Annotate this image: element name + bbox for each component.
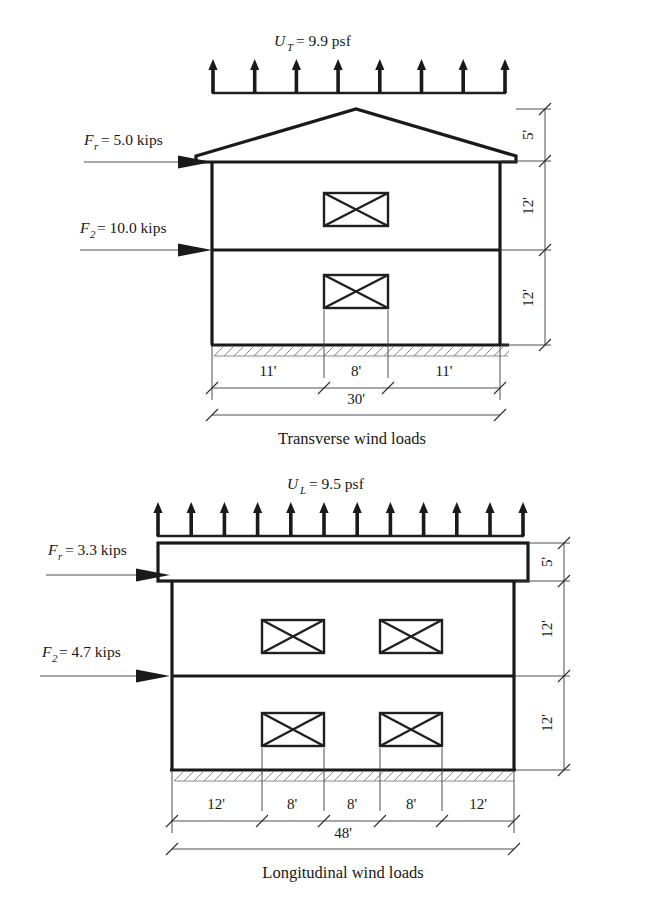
figure-caption-longitudinal: Longitudinal wind loads [262, 863, 423, 882]
braced-panel [380, 713, 442, 746]
vertical-dimension-value: 5' [520, 130, 536, 141]
uplift-arrow [353, 502, 362, 536]
force-subscript: 2 [52, 652, 58, 664]
transverse-diagram-canvas: U T = 9.9 psf [0, 0, 663, 462]
braced-panel [262, 713, 324, 746]
ground-hatching [174, 771, 514, 781]
gable-roof-transverse [196, 109, 516, 162]
uplift-arrow [187, 502, 196, 536]
figure-transverse-wind-loads: U T = 9.9 psf [0, 0, 663, 462]
uplift-arrow [220, 502, 229, 536]
uplift-arrow [292, 59, 301, 93]
force-value: = 4.7 kips [59, 643, 121, 660]
lateral-force-second-floor-longitudinal: F 2 = 4.7 kips [40, 643, 170, 683]
uplift-load-label-transverse: U T = 9.9 psf [274, 32, 352, 53]
horizontal-dimension-chain-longitudinal: 12' 8' 8' 8' 12' 48' [166, 748, 520, 855]
force-symbol: F [41, 643, 52, 660]
horizontal-dimension-value: 8' [347, 796, 358, 812]
uplift-arrow [500, 59, 509, 93]
uplift-arrow [208, 59, 217, 93]
braced-panel [324, 275, 388, 308]
uplift-symbol: U [287, 475, 300, 492]
uplift-arrow-group-transverse [208, 59, 509, 93]
lateral-force-second-floor-transverse: F 2 = 10.0 kips [79, 219, 212, 257]
ground-hatching [214, 346, 509, 356]
horizontal-dimension-value: 8' [406, 796, 417, 812]
vertical-dimension-chain-longitudinal: 5' 12' 12' [515, 537, 570, 776]
uplift-arrow [417, 59, 426, 93]
uplift-symbol: U [274, 32, 287, 49]
figure-caption-transverse: Transverse wind loads [278, 429, 426, 448]
uplift-arrow [153, 502, 162, 536]
longitudinal-diagram-canvas: U L = 9.5 psf [0, 455, 663, 915]
uplift-arrow-group-longitudinal [153, 502, 527, 536]
vertical-dimension-value: 5' [539, 557, 555, 568]
force-symbol: F [79, 219, 90, 236]
uplift-arrow [334, 59, 343, 93]
vertical-dimension-value: 12' [520, 197, 536, 215]
horizontal-dimension-value: 11' [435, 363, 452, 379]
vertical-dimension-value: 12' [539, 620, 555, 638]
uplift-load-label-longitudinal: U L = 9.5 psf [287, 475, 365, 496]
force-value: = 10.0 kips [97, 219, 166, 236]
force-subscript: 2 [90, 228, 96, 240]
uplift-arrow [518, 502, 527, 536]
horizontal-dimension-value: 11' [259, 363, 276, 379]
uplift-arrow [386, 502, 395, 536]
figure-longitudinal-wind-loads: U L = 9.5 psf [0, 455, 663, 915]
uplift-arrow [375, 59, 384, 93]
uplift-arrow [253, 502, 262, 536]
overall-dimension-value: 30' [347, 391, 365, 407]
uplift-arrow [286, 502, 295, 536]
uplift-arrow [459, 59, 468, 93]
vertical-dimension-value: 12' [520, 289, 536, 307]
uplift-subscript: T [287, 41, 294, 53]
uplift-arrow [485, 502, 494, 536]
uplift-arrow [250, 59, 259, 93]
lateral-force-roof-longitudinal: F r = 3.3 kips [46, 541, 170, 582]
horizontal-dimension-value: 8' [287, 796, 298, 812]
force-value: = 5.0 kips [101, 131, 163, 148]
lateral-force-roof-transverse: F r = 5.0 kips [83, 131, 212, 169]
overall-dimension-value: 48' [334, 825, 352, 841]
flat-roof-band-longitudinal [158, 543, 528, 581]
braced-panel [380, 620, 442, 653]
uplift-subscript: L [299, 484, 306, 496]
horizontal-dimension-value: 12' [207, 796, 225, 812]
building-outline-transverse [212, 161, 500, 345]
uplift-arrow [419, 502, 428, 536]
vertical-dimension-chain-transverse: 5' 12' 12' [501, 103, 551, 351]
force-value: = 3.3 kips [65, 541, 127, 558]
force-symbol: F [83, 131, 94, 148]
force-subscript: r [58, 550, 63, 562]
braced-panel [262, 620, 324, 653]
building-outline-longitudinal [170, 581, 516, 770]
force-subscript: r [94, 140, 99, 152]
braced-panel [324, 193, 388, 226]
horizontal-dimension-chain-transverse: 11' 8' 11' 30' [206, 310, 506, 421]
vertical-dimension-value: 12' [539, 714, 555, 732]
horizontal-dimension-value: 12' [469, 796, 487, 812]
horizontal-dimension-value: 8' [351, 363, 362, 379]
uplift-arrow [319, 502, 328, 536]
uplift-arrow [452, 502, 461, 536]
ground-line-transverse [211, 345, 509, 356]
uplift-value: = 9.5 psf [309, 475, 365, 492]
force-symbol: F [47, 541, 58, 558]
uplift-value: = 9.9 psf [296, 32, 352, 49]
